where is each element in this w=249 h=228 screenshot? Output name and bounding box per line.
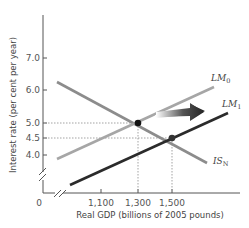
y-tick-5.0: 5.0 xyxy=(26,118,41,128)
y-tick-4.5: 4.5 xyxy=(26,133,40,143)
x-axis: 0 1,100 1,300 1,500 Real GDP (billions o… xyxy=(36,189,240,220)
shift-right-arrow-icon xyxy=(155,103,205,121)
x-tick-1300: 1,300 xyxy=(125,198,151,208)
y-axis: 7.0 6.0 5.0 4.5 4.0 Interest rate (per c… xyxy=(8,15,47,193)
y-tick-6.0: 6.0 xyxy=(26,85,41,95)
x-axis-title: Real GDP (billions of 2005 pounds) xyxy=(76,210,224,220)
y-axis-title: Interest rate (per cent per year) xyxy=(8,37,18,173)
is-lm-chart: 7.0 6.0 5.0 4.5 4.0 Interest rate (per c… xyxy=(0,0,249,228)
is-label: ISN xyxy=(212,156,229,168)
x-tick-1100: 1,100 xyxy=(88,198,114,208)
lm1-curve xyxy=(70,113,228,185)
is-curve xyxy=(57,82,207,163)
x-origin-label: 0 xyxy=(36,198,42,208)
lm0-label: LM0 xyxy=(210,73,230,85)
y-tick-4.0: 4.0 xyxy=(26,150,41,160)
equilibrium-point-new xyxy=(169,135,176,142)
equilibrium-point-initial xyxy=(135,120,142,127)
y-tick-7.0: 7.0 xyxy=(26,53,41,63)
x-tick-1500: 1,500 xyxy=(159,198,185,208)
lm1-label: LM1 xyxy=(221,99,241,111)
